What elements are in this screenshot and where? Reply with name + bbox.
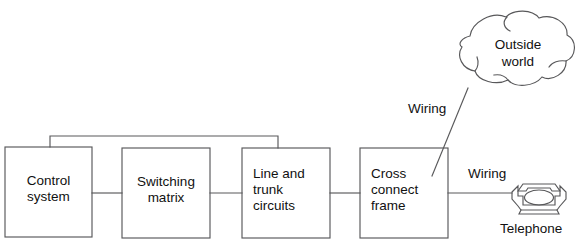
telephone-dial: [525, 190, 554, 205]
box-label-cross-connect-frame: Cross connect frame: [371, 166, 451, 214]
label-wiring-telephone: Wiring: [468, 166, 506, 182]
label-telephone: Telephone: [500, 221, 562, 237]
cloud-label-outside-world: Outside world: [478, 36, 558, 70]
cloud-bump-hint-bottom: [494, 75, 508, 80]
box-label-switching-matrix: Switching matrix: [122, 174, 210, 206]
diagram-canvas: Control system Switching matrix Line and…: [0, 0, 582, 250]
box-label-line-and-trunk-circuits: Line and trunk circuits: [253, 166, 333, 214]
box-label-control-system: Control system: [5, 173, 92, 205]
label-wiring-outside-world: Wiring: [408, 101, 446, 117]
telephone-base-plinth: [519, 210, 559, 214]
cloud-bump-hint-top: [504, 17, 510, 31]
connector-control-to-line-trunk-overhead: [50, 136, 278, 148]
